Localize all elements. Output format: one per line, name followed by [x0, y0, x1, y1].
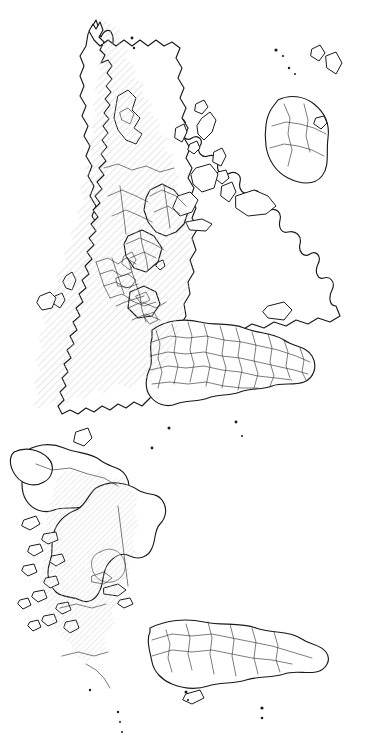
pacific-island-speck-5 — [131, 37, 134, 40]
pacific-island-speck-6 — [133, 47, 135, 49]
atlantic-speck-1 — [151, 447, 154, 450]
atlantic-speck-4 — [187, 699, 189, 701]
atlantic-speck-9 — [119, 721, 121, 723]
atlantic-speck-7 — [89, 689, 91, 691]
indian-ocean-speck-2 — [235, 421, 238, 424]
pacific-island-speck-3 — [288, 67, 290, 69]
atlantic-speck-10 — [121, 731, 123, 733]
atlantic-speck-3 — [185, 691, 188, 694]
atlantic-speck-5 — [260, 706, 263, 709]
indian-ocean-speck-1 — [168, 427, 171, 430]
map-canvas — [0, 0, 369, 750]
atlantic-speck-8 — [117, 711, 119, 713]
atlantic-speck-6 — [261, 717, 264, 720]
pacific-island-speck-1 — [274, 48, 277, 51]
world-map-svg — [0, 0, 369, 750]
pacific-island-speck-2 — [282, 55, 284, 57]
atlantic-speck-2 — [241, 435, 243, 437]
pacific-island-speck-4 — [294, 73, 296, 75]
